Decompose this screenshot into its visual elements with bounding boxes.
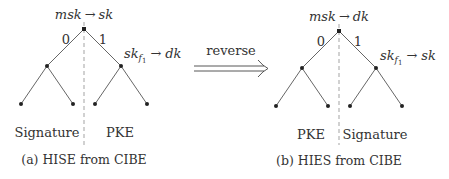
region-label-pke: PKE xyxy=(106,125,134,140)
leaf-node xyxy=(348,104,352,108)
reverse-label: reverse xyxy=(206,43,256,58)
leaf-node xyxy=(274,104,278,108)
edge-label-1: 1 xyxy=(99,32,107,47)
right-node-label: skf1→dk xyxy=(124,46,182,65)
root-label: msk→sk xyxy=(55,7,113,22)
root-node xyxy=(337,29,341,33)
right-node-label: skf1→sk xyxy=(380,48,436,67)
diagram-canvas: msk→sk 0 1 skf1→dk Signature PKE (a) HIS… xyxy=(0,0,449,179)
leaf-node xyxy=(71,102,75,106)
root-label: msk→dk xyxy=(309,9,369,24)
leaf-node xyxy=(145,102,149,106)
leaf-node xyxy=(326,104,330,108)
region-label-signature: Signature xyxy=(342,127,407,142)
tree-edge xyxy=(47,66,73,104)
tree-edge xyxy=(21,66,47,104)
edge-label-1: 1 xyxy=(354,34,362,49)
edge-label-0: 0 xyxy=(62,32,70,47)
tree-edge xyxy=(121,66,147,104)
leaf-node xyxy=(93,102,97,106)
root-node xyxy=(82,27,86,31)
figure-a: msk→sk 0 1 skf1→dk Signature PKE (a) HIS… xyxy=(14,7,181,167)
tree-node xyxy=(300,66,304,70)
tree-edge xyxy=(276,68,302,106)
reverse-transform: reverse xyxy=(194,43,268,77)
tree-edge xyxy=(350,68,376,106)
tree-node xyxy=(374,66,378,70)
caption-b: (b) HIES from CIBE xyxy=(276,153,402,168)
tree-edge xyxy=(376,68,402,106)
tree-node xyxy=(119,64,123,68)
region-label-signature: Signature xyxy=(14,125,79,140)
tree-node xyxy=(45,64,49,68)
tree-edge xyxy=(302,68,328,106)
region-label-pke: PKE xyxy=(297,127,325,142)
tree-edge xyxy=(95,66,121,104)
leaf-node xyxy=(400,104,404,108)
figure-b: msk→dk 0 1 skf1→sk PKE Signature (b) HIE… xyxy=(274,9,436,168)
edge-label-0: 0 xyxy=(317,34,325,49)
double-arrow-right-icon xyxy=(194,60,268,77)
leaf-node xyxy=(19,102,23,106)
caption-a: (a) HISE from CIBE xyxy=(21,152,146,167)
